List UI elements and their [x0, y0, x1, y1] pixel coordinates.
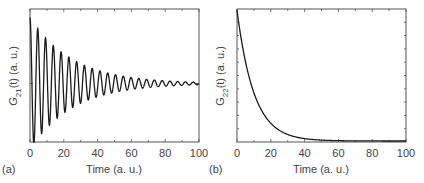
x-axis-label-b: Time (a. u.) — [293, 163, 349, 175]
y-axis-label-a: G21(t) (a. u.) — [7, 46, 22, 106]
series-line-g21 — [30, 18, 199, 143]
chart-panel-b: G22(t) (a. u.) 020406080100 (b) Time (a.… — [207, 0, 419, 183]
x-tick-label: 40 — [91, 147, 103, 159]
x-tick-label: 80 — [366, 147, 378, 159]
x-tick-label: 20 — [58, 147, 70, 159]
panel-label-b: (b) — [209, 163, 222, 175]
series-line-g22 — [237, 10, 406, 141]
x-tick-label: 100 — [190, 147, 208, 159]
chart-panel-a: G21(t) (a. u.) 020406080100 (a) Time (a.… — [0, 0, 212, 183]
x-tick-label: 0 — [234, 147, 240, 159]
x-tick-label: 0 — [27, 147, 33, 159]
x-tick-label: 100 — [397, 147, 415, 159]
y-axis-label-b: G22(t) (a. u.) — [214, 46, 229, 106]
axes-frame — [237, 9, 406, 142]
x-tick-label: 80 — [159, 147, 171, 159]
panel-label-a: (a) — [2, 163, 15, 175]
x-axis-label-a: Time (a. u.) — [86, 163, 142, 175]
x-tick-label: 60 — [332, 147, 344, 159]
x-tick-label: 40 — [298, 147, 310, 159]
x-tick-label: 20 — [265, 147, 277, 159]
x-tick-label: 60 — [125, 147, 137, 159]
